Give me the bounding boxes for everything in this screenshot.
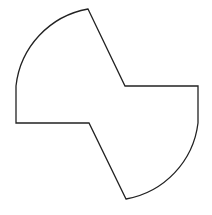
diagram-canvas [0,0,212,215]
two-sector-shape [16,9,198,199]
shape-figure [0,0,212,215]
